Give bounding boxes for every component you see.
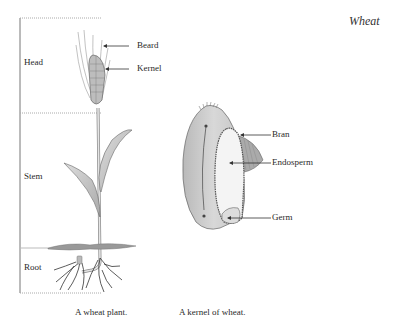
part-label-kernel: Kernel [137, 63, 162, 73]
diagram-title: Wheat [349, 14, 380, 29]
part-label-germ: Germ [272, 212, 293, 222]
part-label-beard: Beard [137, 40, 159, 50]
region-label-stem: Stem [24, 171, 43, 181]
region-label-root: Root [24, 262, 42, 272]
diagram-canvas [0, 0, 409, 327]
plant-caption: A wheat plant. [75, 307, 127, 317]
part-label-bran: Bran [272, 129, 290, 139]
kernel-caption: A kernel of wheat. [179, 307, 245, 317]
part-label-endosperm: Endosperm [272, 157, 313, 167]
region-label-head: Head [24, 57, 43, 67]
wheat-kernel-illustration [183, 102, 263, 229]
